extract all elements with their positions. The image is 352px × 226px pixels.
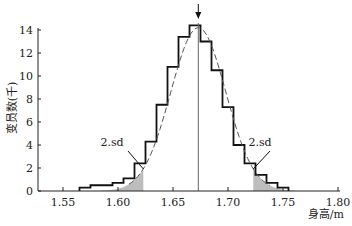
y-tick-label: 10 [19, 70, 33, 83]
y-tick-label: 14 [19, 24, 33, 37]
histogram-outline [80, 25, 289, 191]
y-tick: 2 [26, 162, 41, 175]
x-tick-label: 1.75 [271, 196, 296, 209]
y-tick-label: 0 [26, 185, 33, 198]
histogram-bar [157, 105, 168, 191]
x-tick-label: 1.60 [106, 196, 131, 209]
normal-fit-curve [129, 28, 270, 186]
x-axis-label: 身高/m [308, 207, 345, 221]
y-tick: 0 [26, 185, 41, 198]
x-tick-label: 1.55 [51, 196, 76, 209]
y-tick-label: 2 [26, 162, 33, 175]
annotation-label: 2.sd [248, 136, 271, 149]
histogram-bar [223, 107, 234, 191]
histogram-bar [234, 145, 245, 191]
x-tick-label: 1.65 [161, 196, 186, 209]
y-tick-label: 6 [26, 116, 33, 129]
y-tick: 6 [26, 116, 41, 129]
x-tick: 1.80 [326, 187, 351, 209]
x-tick-label: 1.70 [216, 196, 241, 209]
y-tick: 4 [26, 139, 41, 152]
y-tick-label: 4 [26, 139, 33, 152]
y-tick: 8 [26, 93, 41, 106]
x-tick: 1.70 [216, 187, 241, 209]
y-tick-label: 12 [19, 47, 33, 60]
histogram-bar [201, 42, 212, 192]
x-tick: 1.65 [161, 187, 186, 209]
annotation-label: 2.sd [100, 136, 123, 149]
histogram-chart: 1.551.601.651.701.751.80 02468101214 2.s… [0, 0, 352, 226]
mean-arrow-icon [195, 4, 201, 19]
y-axis-label: 变员数(千) [5, 82, 19, 135]
y-tick-label: 8 [26, 93, 33, 106]
histogram-bar [146, 142, 157, 191]
shaded-tails [102, 169, 295, 191]
axes [38, 28, 340, 191]
histogram-bars [80, 25, 289, 191]
histogram-bar [212, 70, 223, 191]
x-ticks: 1.551.601.651.701.751.80 [51, 187, 351, 209]
histogram-bar [190, 25, 201, 191]
x-tick: 1.55 [51, 187, 76, 209]
left-tail-area [102, 169, 144, 191]
